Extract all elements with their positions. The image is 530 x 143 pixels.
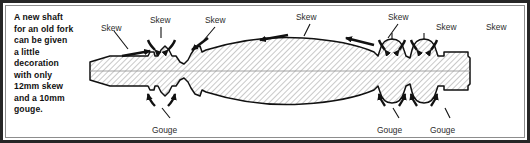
caption-line-7: 12mm skew: [14, 81, 88, 93]
gouge-arrow-1b: [168, 94, 175, 106]
gouge-arrow-1a: [148, 94, 155, 106]
caption-line-4: a little: [14, 47, 88, 59]
skew-leader-5: [388, 24, 398, 38]
gouge-label-2: Gouge: [377, 125, 402, 135]
figure-panel: A new shaft for an old fork can be given…: [0, 0, 530, 143]
skew-label-2: Skew: [150, 15, 170, 25]
skew-leader-1: [114, 31, 128, 49]
caption-line-2: for an old fork: [14, 24, 88, 36]
skew-leader-3: [204, 27, 215, 40]
skew-arrow-2b: [168, 40, 175, 50]
caption-line-3: can be given: [14, 35, 88, 47]
caption-line-9: gouge.: [14, 104, 88, 116]
spindle-profile-diagram: Skew Skew Skew Skew Skew Skew Skew Gouge…: [88, 6, 522, 141]
caption-line-6: with only: [14, 70, 88, 82]
skew-leader-4: [304, 24, 310, 36]
gouge-leader-1: [162, 108, 170, 118]
gouge-label-3: Gouge: [430, 125, 455, 135]
skew-arrow-2a: [148, 40, 155, 50]
skew-label-4: Skew: [296, 12, 316, 22]
gouge-leader-3: [445, 108, 450, 118]
skew-label-7: Skew: [486, 22, 506, 32]
skew-label-5: Skew: [388, 12, 408, 22]
skew-label-6: Skew: [436, 22, 456, 32]
spindle-svg: [88, 6, 522, 137]
caption-line-8: and a 10mm: [14, 93, 88, 105]
gouge-label-1: Gouge: [152, 125, 177, 135]
caption-line-1: A new shaft: [14, 12, 88, 24]
gouge-leader-2: [393, 108, 399, 118]
caption-line-5: decoration: [14, 58, 88, 70]
figure-caption: A new shaft for an old fork can be given…: [14, 12, 88, 116]
skew-label-3: Skew: [205, 15, 225, 25]
skew-label-1: Skew: [101, 23, 121, 33]
